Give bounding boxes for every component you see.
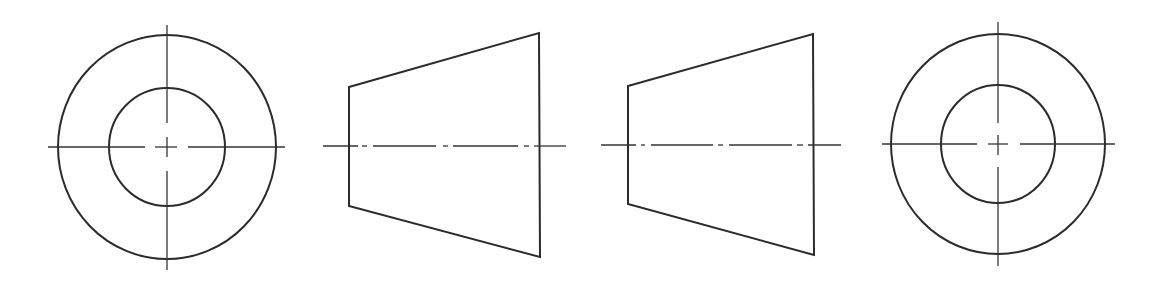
technical-drawing	[0, 0, 1152, 296]
frustum-outline	[349, 33, 540, 257]
view-side-right	[601, 34, 841, 255]
view-end-right	[882, 22, 1115, 266]
view-side-left	[323, 33, 566, 257]
view-end-left	[48, 25, 285, 270]
